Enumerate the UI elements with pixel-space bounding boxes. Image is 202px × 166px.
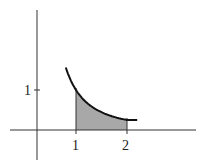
plot-svg: 1 1 2	[0, 0, 202, 166]
shaded-area	[76, 90, 127, 130]
diagram: 1 1 2	[0, 0, 202, 166]
x-tick-label-2: 2	[122, 138, 129, 153]
y-tick-label-1: 1	[24, 83, 31, 98]
x-tick-label-1: 1	[72, 138, 79, 153]
